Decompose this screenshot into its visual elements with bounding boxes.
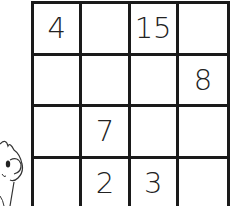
cartoon-character-icon [0,138,30,206]
grid-cell-r4c1[interactable] [34,159,82,207]
grid-cell-r3c3[interactable] [131,107,179,159]
grid-cell-r4c4[interactable] [179,159,227,207]
grid-cell-r1c1[interactable]: 4 [34,4,82,56]
number-grid: 4 15 8 7 2 3 [31,1,230,206]
grid-cell-r2c4[interactable]: 8 [179,56,227,108]
grid-cell-r3c1[interactable] [34,107,82,159]
grid-cell-r4c3[interactable]: 3 [131,159,179,207]
grid-cell-r2c3[interactable] [131,56,179,108]
grid-cell-r3c4[interactable] [179,107,227,159]
grid-cell-r1c2[interactable] [82,4,130,56]
grid-cell-r2c2[interactable] [82,56,130,108]
grid-cell-r3c2[interactable]: 7 [82,107,130,159]
grid-cell-r4c2[interactable]: 2 [82,159,130,207]
grid-cell-r1c3[interactable]: 15 [131,4,179,56]
grid-cell-r2c1[interactable] [34,56,82,108]
grid-cell-r1c4[interactable] [179,4,227,56]
